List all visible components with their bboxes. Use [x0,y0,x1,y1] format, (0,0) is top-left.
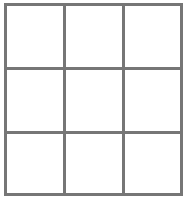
cell-1-0[interactable] [7,70,63,131]
cell-2-1[interactable] [66,134,122,193]
cell-2-2[interactable] [125,134,180,193]
cell-2-0[interactable] [7,134,63,193]
cell-1-2[interactable] [125,70,180,131]
cell-0-2[interactable] [125,6,180,67]
cell-0-1[interactable] [66,6,122,67]
cell-1-1[interactable] [66,70,122,131]
cell-0-0[interactable] [7,6,63,67]
tic-tac-toe-board [4,3,183,196]
